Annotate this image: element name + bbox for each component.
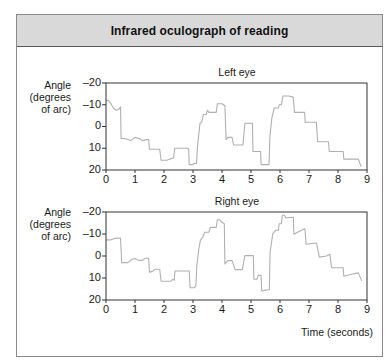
x-axis-label: Time (seconds) [301,326,373,338]
left-eye-ytick-label: 10 [89,141,101,153]
right-eye-xtick-label: 1 [132,303,138,315]
right-eye-trace [106,215,362,291]
right-eye-chart-title: Right eye [215,195,260,207]
left-eye-xtick-label: 7 [306,173,312,185]
right-eye-axes-box [106,212,367,300]
left-eye-xtick-label: 3 [190,173,196,185]
right-eye-traces [106,215,362,291]
left-eye-axes-box [106,83,367,170]
left-eye-xtick-label: 2 [161,173,167,185]
right-eye-ytick-label: –10 [83,227,101,239]
right-eye-ytick-label: 10 [89,271,101,283]
left-eye-trace [106,96,361,167]
right-eye-ylabel-line-1: Angle [44,206,71,218]
left-eye-ytick-label: –10 [83,98,101,110]
right-eye-xtick-label: 6 [277,303,283,315]
right-eye-ylabel-line-2: (degrees [30,218,71,230]
left-eye-ylabel-line-2: (degrees [30,91,71,103]
right-eye-xtick-label: 7 [306,303,312,315]
right-eye-ytick-label: 0 [95,249,101,261]
right-eye-ylabel-line-3: of arc) [41,230,71,242]
left-eye-xtick-label: 1 [132,173,138,185]
right-eye-xtick-label: 9 [364,303,370,315]
left-eye-ylabel-line-3: of arc) [41,103,71,115]
right-eye-xtick-label: 0 [103,303,109,315]
left-eye-xtick-label: 5 [248,173,254,185]
left-eye-xtick-label: 8 [335,173,341,185]
left-eye-ytick-label: 20 [89,163,101,175]
left-eye-ticks: –20–10010200123456789 [83,76,370,185]
left-eye-ytick-label: –20 [83,76,101,88]
oculograph-charts: Left eye Angle (degrees of arc) –20–1001… [0,0,392,364]
left-eye-ytick-label: 0 [95,119,101,131]
right-eye-ticks: –20–10010200123456789 [83,205,370,315]
left-eye-xtick-label: 6 [277,173,283,185]
right-eye-xtick-label: 2 [161,303,167,315]
left-eye-chart: Left eye Angle (degrees of arc) –20–1001… [30,66,371,185]
left-eye-xtick-label: 9 [364,173,370,185]
right-eye-xtick-label: 5 [248,303,254,315]
left-eye-chart-title: Left eye [218,66,256,78]
right-eye-chart: Right eye Angle (degrees of arc) –20–100… [30,195,373,338]
left-eye-xtick-label: 0 [103,173,109,185]
right-eye-xtick-label: 3 [190,303,196,315]
right-eye-ytick-label: –20 [83,205,101,217]
left-eye-ylabel-line-1: Angle [44,79,71,91]
right-eye-xtick-label: 4 [219,303,225,315]
right-eye-ytick-label: 20 [89,293,101,305]
right-eye-xtick-label: 8 [335,303,341,315]
left-eye-traces [106,96,361,167]
left-eye-xtick-label: 4 [219,173,225,185]
